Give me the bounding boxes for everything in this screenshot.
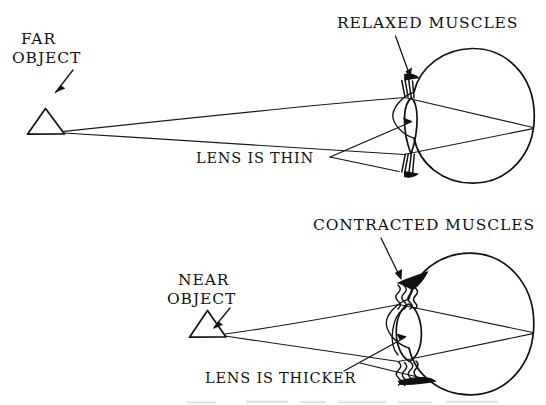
lens-is-thin-label: LENS IS THIN (196, 150, 314, 166)
far-object-label-line1: FAR (21, 30, 56, 48)
lens-is-thicker-label: LENS IS THICKER (205, 370, 356, 386)
paper-background (0, 0, 546, 405)
near-object-label-line2: OBJECT (167, 290, 236, 308)
far-object-label-line2: OBJECT (12, 49, 81, 67)
relaxed-muscles-label: RELAXED MUSCLES (337, 14, 518, 32)
eye-accommodation-diagram: FAR OBJECT (0, 0, 546, 405)
contracted-muscles-label: CONTRACTED MUSCLES (313, 216, 535, 234)
near-object-label-line1: NEAR (178, 271, 230, 289)
diagram-canvas: FAR OBJECT (0, 0, 546, 405)
